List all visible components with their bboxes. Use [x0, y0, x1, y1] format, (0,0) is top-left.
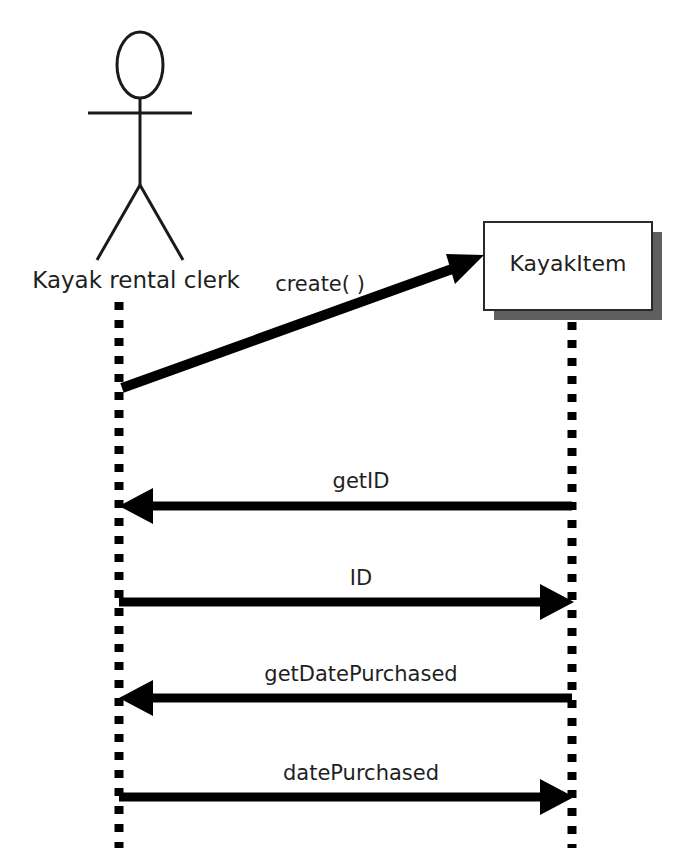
- message-create-label: create( ): [275, 272, 365, 296]
- object-box-kayakitem[interactable]: KayakItem: [484, 222, 662, 320]
- actor-left-leg-line: [97, 185, 140, 260]
- message-getdatepurchased-label: getDatePurchased: [264, 662, 457, 686]
- sequence-diagram-canvas: Kayak rental clerk KayakItem create( ) g…: [0, 0, 698, 864]
- actor-label: Kayak rental clerk: [32, 267, 240, 293]
- message-datepurchased-label: datePurchased: [283, 761, 439, 785]
- message-id[interactable]: [119, 584, 574, 620]
- uml-sequence-diagram: Kayak rental clerk KayakItem create( ) g…: [0, 0, 698, 864]
- message-create-arrowhead: [446, 254, 484, 284]
- message-getid[interactable]: [119, 488, 572, 524]
- message-getid-arrowhead: [119, 488, 153, 524]
- actor-head-icon: [117, 32, 163, 98]
- message-id-label: ID: [350, 566, 372, 590]
- message-getdatepurchased-arrowhead: [119, 680, 153, 716]
- message-getid-label: getID: [333, 469, 390, 493]
- actor-stick-figure[interactable]: [88, 32, 192, 260]
- actor-right-leg-line: [140, 185, 183, 260]
- object-box-label: KayakItem: [510, 251, 627, 276]
